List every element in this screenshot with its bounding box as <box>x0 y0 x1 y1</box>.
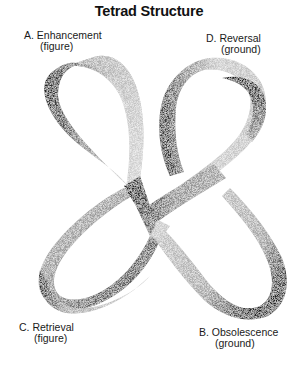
ribbon-lower-right-shadow <box>244 288 282 316</box>
ribbon-upper-left-top-face <box>76 56 143 182</box>
tetrad-ribbon-figure <box>0 0 298 373</box>
